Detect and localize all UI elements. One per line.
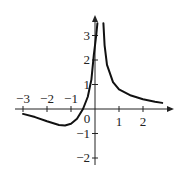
y-tick-label: −1: [76, 126, 90, 141]
curves: [23, 23, 162, 125]
y-axis-arrow-icon: [92, 15, 98, 22]
x-tick-label: 0: [84, 111, 91, 126]
x-tick-label: 1: [116, 114, 123, 129]
x-tick-label: −2: [40, 91, 54, 106]
x-tick-label: 2: [140, 114, 147, 129]
y-tick-label: 2: [84, 52, 91, 67]
x-axis-arrow-icon: [167, 106, 174, 112]
curve-branch: [103, 23, 162, 103]
chart: −3−2−1012 −2−1123: [0, 0, 184, 171]
x-tick-label: −1: [64, 91, 78, 106]
x-tick-labels: −3−2−1012: [16, 91, 146, 129]
y-tick-label: −2: [76, 150, 90, 165]
x-tick-label: −3: [16, 91, 30, 106]
y-tick-label: 3: [84, 28, 91, 43]
